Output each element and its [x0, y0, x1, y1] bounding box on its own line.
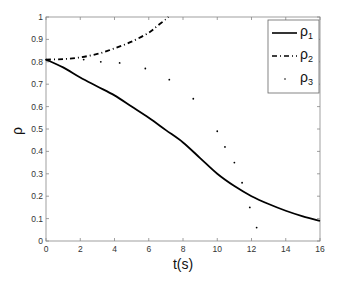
y-tick-label: 0.3 [31, 169, 43, 179]
y-tick-label: 0.8 [31, 57, 43, 67]
x-tick-label: 2 [78, 244, 83, 254]
y-tick-label: 0.2 [31, 191, 43, 201]
x-tick-label: 0 [44, 244, 49, 254]
data-point [168, 79, 170, 81]
chart: 024681012141600.10.20.30.40.50.60.70.80.… [0, 0, 337, 281]
legend: ρ1 ρ2 ρ3 [268, 20, 319, 93]
y-tick-label: 1 [38, 12, 43, 22]
y-tick-label: 0.7 [31, 79, 43, 89]
legend-swatch-points [284, 78, 286, 80]
x-axis-label: t(s) [173, 256, 193, 272]
data-point [45, 59, 47, 61]
data-point [216, 130, 218, 132]
data-point [249, 207, 251, 209]
y-tick-label: 0.1 [31, 214, 43, 224]
data-point [144, 68, 146, 70]
x-tick-label: 4 [112, 244, 117, 254]
x-tick-label: 16 [315, 244, 325, 254]
x-tick-label: 6 [146, 244, 151, 254]
x-tick-label: 8 [181, 244, 186, 254]
y-tick-label: 0.9 [31, 34, 43, 44]
data-point [83, 59, 85, 61]
data-point [241, 182, 243, 184]
y-tick-label: 0 [38, 236, 43, 246]
y-tick-label: 0.5 [31, 124, 43, 134]
x-tick-label: 14 [281, 244, 291, 254]
data-point [100, 61, 102, 63]
data-point [233, 162, 235, 164]
data-point [119, 62, 121, 64]
data-point [224, 146, 226, 148]
x-tick-label: 12 [247, 244, 257, 254]
y-tick-label: 0.6 [31, 102, 43, 112]
y-axis-label: ρ [9, 127, 25, 135]
y-tick-label: 0.4 [31, 146, 43, 156]
data-point [256, 227, 258, 229]
data-point [192, 98, 194, 100]
x-tick-label: 10 [213, 244, 223, 254]
